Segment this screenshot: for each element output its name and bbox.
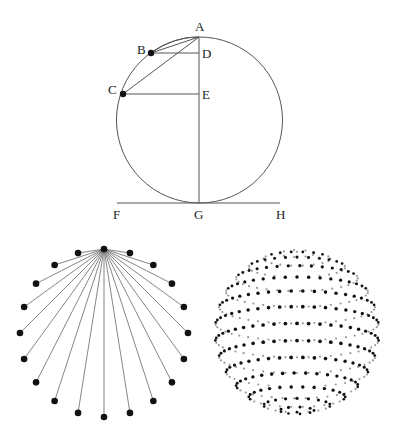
sphere-dot-front bbox=[261, 340, 265, 344]
sphere-dot-back bbox=[219, 309, 221, 311]
sphere-dot-back bbox=[267, 408, 269, 410]
sphere-dot-back bbox=[215, 324, 217, 326]
sphere-dot-back bbox=[340, 354, 342, 356]
sphere-dot-back bbox=[340, 302, 342, 304]
sphere-dot-back bbox=[326, 396, 328, 398]
sphere-dot-front bbox=[278, 305, 282, 309]
sphere-dot-back bbox=[233, 378, 235, 380]
sphere-dot-back bbox=[265, 255, 267, 257]
sphere-dot-front bbox=[377, 321, 380, 324]
fan-chord bbox=[36, 249, 104, 284]
label-a: A bbox=[195, 19, 205, 34]
sphere-dot-front bbox=[219, 316, 222, 319]
sphere-dot-back bbox=[252, 302, 254, 304]
sphere-dot-front bbox=[298, 264, 301, 267]
sphere-dot-front bbox=[350, 378, 353, 381]
sphere-dot-front bbox=[272, 339, 276, 343]
sphere-dot-front bbox=[252, 279, 255, 282]
sphere-dot-front bbox=[295, 275, 298, 278]
sphere-dot-front bbox=[315, 372, 319, 376]
sphere-dot-back bbox=[261, 395, 263, 397]
sphere-dot-back bbox=[269, 404, 271, 406]
point-labels: A B C D E F G H bbox=[108, 19, 285, 222]
sphere-dot-front bbox=[377, 339, 380, 342]
sphere-dot-back bbox=[293, 256, 295, 258]
sphere-dot-front bbox=[312, 251, 315, 254]
sphere-dot-back bbox=[354, 335, 356, 337]
sphere-dot-back bbox=[302, 322, 304, 324]
sphere-dot-front bbox=[301, 385, 304, 388]
sphere-dot-front bbox=[217, 334, 220, 337]
sphere-dot-back bbox=[349, 368, 351, 370]
sphere-dot-back bbox=[367, 290, 369, 292]
sphere-dot-back bbox=[252, 369, 254, 371]
sphere-dot-front bbox=[339, 279, 342, 282]
label-e: E bbox=[202, 87, 210, 102]
sphere-dot-back bbox=[299, 290, 301, 292]
sphere-dot-front bbox=[366, 368, 369, 371]
sphere-dot-front bbox=[287, 264, 290, 267]
sphere-dot-back bbox=[283, 250, 285, 252]
sphere-dot-front bbox=[349, 326, 353, 330]
sphere-dot-back bbox=[273, 305, 275, 307]
sphere-dot-front bbox=[335, 260, 338, 263]
sphere-dot-back bbox=[344, 382, 346, 384]
sphere-dot-front bbox=[304, 371, 308, 375]
sphere-dot-front bbox=[328, 258, 331, 261]
sphere-dot-front bbox=[356, 383, 359, 386]
sphere-dot-back bbox=[267, 321, 269, 323]
sphere-dot-back bbox=[370, 346, 372, 348]
sphere-dot-back bbox=[345, 336, 347, 338]
sphere-dot-front bbox=[372, 316, 375, 319]
sphere-dot-front bbox=[309, 411, 312, 414]
sphere-dot-front bbox=[251, 342, 255, 346]
dot-sphere-figure bbox=[214, 249, 380, 415]
fan-point-dot bbox=[101, 246, 108, 253]
sphere-dot-front bbox=[344, 293, 347, 296]
fan-point-dot bbox=[21, 304, 28, 311]
sphere-dot-front bbox=[268, 387, 271, 390]
sphere-dot-front bbox=[375, 319, 378, 322]
sphere-dot-front bbox=[328, 405, 331, 408]
sphere-dot-back bbox=[296, 372, 298, 374]
sphere-dot-back bbox=[349, 352, 351, 354]
sphere-dot-front bbox=[290, 250, 293, 253]
sphere-dot-front bbox=[251, 324, 255, 328]
sphere-dot-front bbox=[301, 250, 304, 253]
sphere-dot-front bbox=[241, 271, 244, 274]
sphere-dot-back bbox=[270, 262, 272, 264]
sphere-dot-front bbox=[225, 299, 228, 302]
sphere-dot-back bbox=[308, 356, 310, 358]
sphere-dot-front bbox=[334, 358, 338, 362]
sphere-dot-back bbox=[247, 336, 249, 338]
fan-chord bbox=[20, 249, 104, 333]
sphere-dot-front bbox=[343, 376, 346, 379]
sphere-dot-front bbox=[296, 411, 299, 414]
sphere-dot-back bbox=[358, 350, 360, 352]
sphere-dot-front bbox=[247, 293, 250, 296]
sphere-dot-front bbox=[368, 349, 371, 352]
sphere-dot-front bbox=[370, 301, 373, 304]
sphere-dot-back bbox=[267, 385, 269, 387]
sphere-dot-back bbox=[335, 320, 337, 322]
sphere-dot-back bbox=[319, 356, 321, 358]
label-c: C bbox=[108, 82, 117, 97]
sphere-dot-back bbox=[313, 339, 315, 341]
sphere-dot-back bbox=[221, 311, 223, 313]
sphere-dot-back bbox=[225, 292, 227, 294]
sphere-dot-back bbox=[247, 319, 249, 321]
sphere-dot-front bbox=[237, 273, 240, 276]
sphere-dot-back bbox=[245, 391, 247, 393]
sphere-dot-front bbox=[262, 277, 265, 280]
sphere-dot-front bbox=[360, 297, 363, 300]
sphere-dot-front bbox=[323, 387, 326, 390]
sphere-dot-back bbox=[262, 304, 264, 306]
sphere-dot-front bbox=[307, 322, 311, 326]
fan-point-dot bbox=[33, 280, 40, 287]
sphere-dot-front bbox=[324, 400, 327, 403]
sphere-dot-back bbox=[251, 270, 253, 272]
sphere-dot-front bbox=[246, 308, 250, 312]
fan-chord bbox=[104, 249, 184, 307]
sphere-dot-back bbox=[331, 288, 333, 290]
sphere-dot-front bbox=[313, 409, 316, 412]
